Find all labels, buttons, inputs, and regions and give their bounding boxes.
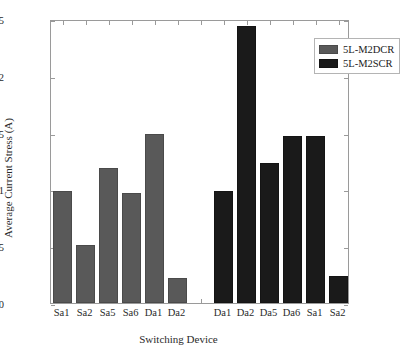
y-tick-mark-right	[344, 191, 348, 192]
x-tick-mark-top	[132, 21, 133, 25]
y-tick-label: 1	[0, 185, 4, 196]
y-tick-mark	[51, 305, 55, 306]
legend-entry-scr[interactable]: 5L-M2SCR	[319, 56, 394, 70]
x-tick-mark-top	[178, 21, 179, 25]
legend-swatch-scr-icon	[319, 59, 338, 68]
x-tick-mark-top	[86, 21, 87, 25]
y-tick-mark	[51, 135, 55, 136]
x-tick-mark-top	[247, 21, 248, 25]
plot-area: 5L-M2DCR 5L-M2SCR	[50, 20, 349, 304]
legend-swatch-dcr-icon	[319, 45, 338, 54]
y-tick-mark-right	[344, 21, 348, 22]
y-tick-mark-right	[344, 305, 348, 306]
x-tick-mark-top	[155, 21, 156, 25]
legend: 5L-M2DCR 5L-M2SCR	[314, 38, 400, 74]
x-tick-label: Sa2	[318, 307, 358, 318]
y-tick-mark-right	[344, 248, 348, 249]
y-tick-mark-right	[344, 135, 348, 136]
y-tick-label: 2.5	[0, 15, 4, 26]
y-tick-label: 1.5	[0, 128, 4, 139]
bar-5l-m2scr-sa1[interactable]	[306, 136, 324, 303]
y-tick-label: 0	[0, 299, 4, 310]
bar-5l-m2dcr-da1[interactable]	[145, 134, 163, 303]
bar-5l-m2dcr-da2[interactable]	[168, 278, 186, 303]
x-tick-mark-top	[201, 21, 202, 25]
bar-5l-m2dcr-sa2[interactable]	[76, 245, 94, 303]
legend-entry-dcr[interactable]: 5L-M2DCR	[319, 42, 394, 56]
x-axis-title: Switching Device	[0, 333, 357, 345]
x-tick-mark-top	[339, 21, 340, 25]
x-tick-mark-top	[224, 21, 225, 25]
bar-5l-m2scr-da6[interactable]	[283, 136, 301, 303]
x-tick-label: Da2	[157, 307, 197, 318]
y-tick-label: 2	[0, 71, 4, 82]
x-tick-mark	[201, 299, 202, 303]
x-tick-mark-top	[109, 21, 110, 25]
legend-label-dcr: 5L-M2DCR	[343, 44, 394, 55]
y-tick-label: 0.5	[0, 242, 4, 253]
bar-5l-m2scr-sa2[interactable]	[329, 276, 347, 303]
bar-5l-m2dcr-sa6[interactable]	[122, 193, 140, 303]
x-tick-mark-top	[270, 21, 271, 25]
x-tick-mark-top	[63, 21, 64, 25]
bar-5l-m2scr-da1[interactable]	[214, 191, 232, 303]
bar-5l-m2scr-da5[interactable]	[260, 163, 278, 303]
y-tick-mark	[51, 78, 55, 79]
y-tick-mark	[51, 21, 55, 22]
bar-5l-m2dcr-sa1[interactable]	[53, 191, 71, 303]
bar-5l-m2scr-da2[interactable]	[237, 26, 255, 303]
x-tick-mark-top	[316, 21, 317, 25]
y-tick-mark-right	[344, 78, 348, 79]
legend-label-scr: 5L-M2SCR	[343, 58, 393, 69]
x-tick-mark-top	[293, 21, 294, 25]
bar-5l-m2dcr-sa5[interactable]	[99, 168, 117, 303]
